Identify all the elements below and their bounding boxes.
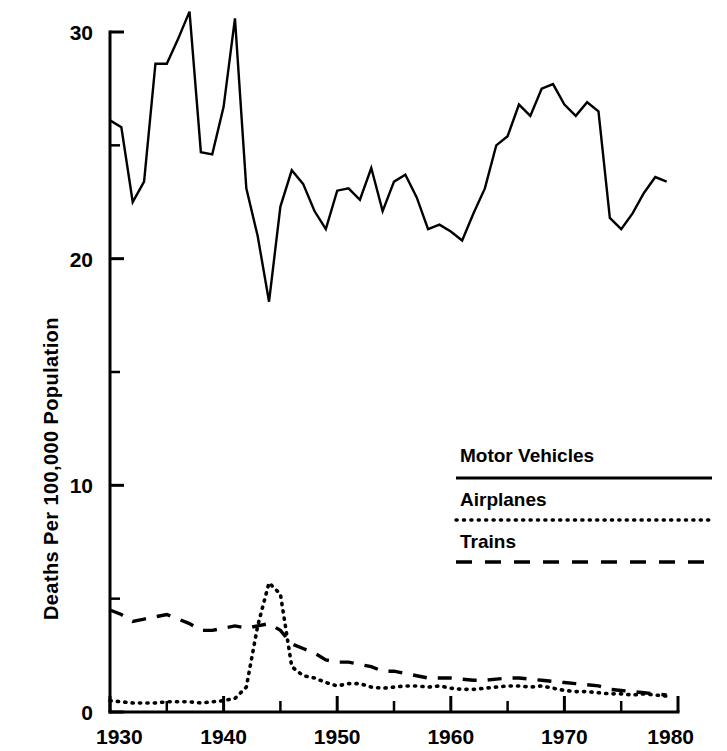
legend-label-airplanes: Airplanes <box>460 489 547 510</box>
x-tick-label: 1930 <box>96 725 143 748</box>
x-tick-label: 1970 <box>541 725 588 748</box>
x-tick-label: 1960 <box>427 725 474 748</box>
x-tick-label: 1940 <box>200 725 247 748</box>
y-tick-label: 20 <box>70 248 93 271</box>
legend-label-trains: Trains <box>460 531 516 552</box>
chart-legend: Motor VehiclesAirplanesTrains <box>456 445 712 562</box>
legend-label-motor-vehicles: Motor Vehicles <box>460 445 594 466</box>
series-line-airplanes <box>110 583 667 703</box>
x-tick-label: 1980 <box>647 725 694 748</box>
y-tick-label: 10 <box>70 474 93 497</box>
y-tick-label: 30 <box>70 21 93 44</box>
series-line-motor-vehicles <box>110 12 667 302</box>
chart-svg: 0102030193019401950196019701980 Motor Ve… <box>0 0 727 751</box>
chart-container: Deaths Per 100,000 Population 0102030193… <box>0 0 727 751</box>
y-tick-label: 0 <box>81 701 93 724</box>
data-series <box>110 12 667 703</box>
x-tick-label: 1950 <box>314 725 361 748</box>
series-line-trains <box>110 610 667 695</box>
